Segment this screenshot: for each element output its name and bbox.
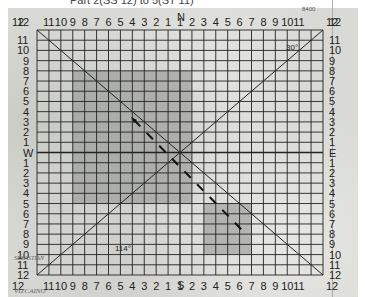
top-label: 6 <box>106 17 112 28</box>
bottom-label: 5 <box>225 281 231 292</box>
bottom-label: 6 <box>237 281 243 292</box>
top-label: 9 <box>70 17 76 28</box>
lat-30-label: 30° <box>286 42 298 53</box>
bottom-label: 4 <box>129 281 135 292</box>
lon-114-label: 114° <box>115 243 131 254</box>
top-label: 5 <box>117 17 123 28</box>
place-vizcaino: VIZCAINO <box>14 287 46 295</box>
bottom-label: 3 <box>141 281 147 292</box>
top-label: 6 <box>237 17 243 28</box>
elevation-label: 8400 <box>302 6 315 12</box>
top-label: 11 <box>43 17 54 28</box>
bottom-label: 2 <box>153 281 159 292</box>
top-label: 9 <box>272 17 278 28</box>
grid-overlay <box>0 0 365 297</box>
top-label: 8 <box>82 17 88 28</box>
top-label: 7 <box>94 17 100 28</box>
bottom-label: 9 <box>272 281 278 292</box>
top-label: 3 <box>141 17 147 28</box>
top-label: 3 <box>201 17 207 28</box>
north-label: N <box>177 12 185 23</box>
bottom-label: 8 <box>260 281 266 292</box>
bottom-label: 11 <box>293 281 304 292</box>
south-label: S <box>177 280 184 291</box>
place-sebastian: SEBASTIAN <box>14 255 44 261</box>
top-label: 10 <box>55 17 67 28</box>
bottom-label: 1 <box>165 281 171 292</box>
top-label: 1 <box>165 17 171 28</box>
right-label: 12 <box>329 17 341 28</box>
top-label: 2 <box>189 17 195 28</box>
bottom-label: 4 <box>213 281 219 292</box>
top-label: 8 <box>260 17 266 28</box>
bottom-label: 10 <box>281 281 293 292</box>
top-label: 7 <box>249 17 255 28</box>
top-label: 2 <box>153 17 159 28</box>
bottom-label: 7 <box>94 281 100 292</box>
bottom-label: 10 <box>55 281 67 292</box>
bottom-label: 7 <box>249 281 255 292</box>
bottom-label: 3 <box>201 281 207 292</box>
left-label: 12 <box>17 270 29 281</box>
right-label: 12 <box>329 270 341 281</box>
top-label: 11 <box>293 17 304 28</box>
bottom-label: 9 <box>70 281 76 292</box>
bottom-label: 2 <box>189 281 195 292</box>
bottom-label: 5 <box>117 281 123 292</box>
top-label: 4 <box>213 17 219 28</box>
top-label: 10 <box>281 17 293 28</box>
bottom-label: 8 <box>82 281 88 292</box>
top-label: 5 <box>225 17 231 28</box>
top-label: 4 <box>129 17 135 28</box>
left-label: 12 <box>17 17 29 28</box>
bottom-label: 6 <box>106 281 112 292</box>
bottom-label: 12 <box>326 281 338 292</box>
